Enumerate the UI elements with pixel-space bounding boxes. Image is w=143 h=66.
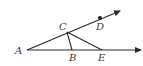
point-D-dot <box>98 16 102 20</box>
label-D: D <box>95 21 104 32</box>
label-C: C <box>59 21 67 32</box>
segment-CE <box>67 32 102 50</box>
ray-ACD <box>27 11 120 50</box>
label-B: B <box>68 52 76 63</box>
label-E: E <box>97 52 106 63</box>
label-A: A <box>14 45 22 56</box>
geometry-diagram: A B C D E <box>0 0 143 66</box>
